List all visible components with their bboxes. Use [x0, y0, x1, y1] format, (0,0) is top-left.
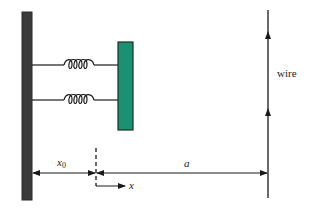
current-arrow-icon: [265, 31, 271, 39]
a-label: a: [184, 157, 190, 169]
current-arrow-icon: [265, 108, 271, 116]
x-axis-label: x: [128, 179, 134, 191]
lower-spring: [32, 95, 118, 104]
mass-block: [118, 42, 133, 130]
wire: [265, 10, 271, 198]
x0-label: x0: [56, 156, 66, 170]
wire-label: wire: [277, 67, 297, 79]
diagram-canvas: wire x0 a x: [0, 0, 311, 210]
wall: [22, 12, 32, 200]
upper-spring: [32, 60, 118, 69]
